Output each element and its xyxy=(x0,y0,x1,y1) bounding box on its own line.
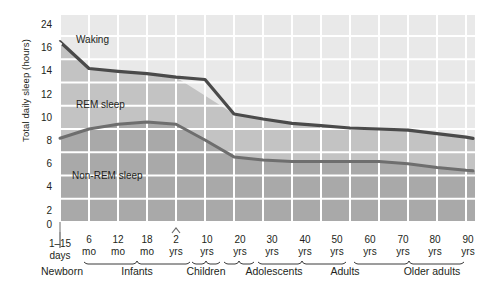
x-tick-13-top: 90 xyxy=(462,234,474,245)
y-tick-10: 10 xyxy=(41,112,53,123)
y-tick-4: 4 xyxy=(46,181,52,192)
y-tick-0: 0 xyxy=(46,219,52,230)
x-tick-10-top: 60 xyxy=(364,234,376,245)
x-tick-10-bottom: yrs xyxy=(363,246,376,257)
sleep-architecture-chart: Total daily sleep (hours) xyxy=(0,0,492,282)
group-label-older-adults: Older adults xyxy=(404,265,461,277)
x-tick-1-bottom: mo xyxy=(82,246,96,257)
x-tick-6-top: 20 xyxy=(234,234,246,245)
y-axis-title: Total daily sleep (hours) xyxy=(20,11,31,171)
y-tick-6: 6 xyxy=(46,158,52,169)
band-label-non-rem-sleep: Non-REM sleep xyxy=(72,170,143,181)
x-tick-13-bottom: yrs xyxy=(461,246,474,257)
x-tick-8-top: 40 xyxy=(299,234,311,245)
x-tick-4-bottom: yrs xyxy=(169,246,182,257)
y-tick-12: 12 xyxy=(41,89,53,100)
y-axis-ticks: 24 16 14 12 10 8 6 4 2 0 xyxy=(41,19,53,230)
x-tick-4-top: 2 xyxy=(173,234,179,245)
x-axis-ticks: 1–15 days 6 mo 12 mo 18 mo 2 yrs 10 yrs … xyxy=(49,234,475,261)
x-tick-11-bottom: yrs xyxy=(396,246,409,257)
x-tick-1-top: 6 xyxy=(86,234,92,245)
y-tick-16: 16 xyxy=(41,42,53,53)
chart-canvas: 24 16 14 12 10 8 6 4 2 0 Waking REM slee… xyxy=(0,0,492,282)
x-tick-7-bottom: yrs xyxy=(265,246,278,257)
y-tick-24: 24 xyxy=(41,19,53,30)
x-tick-8-bottom: yrs xyxy=(298,246,311,257)
group-label-adolescents: Adolescents xyxy=(245,265,302,277)
band-label-waking: Waking xyxy=(76,34,109,45)
x-tick-6-bottom: yrs xyxy=(233,246,246,257)
y-tick-14: 14 xyxy=(41,65,53,76)
x-tick-9-top: 50 xyxy=(331,234,343,245)
x-tick-12-top: 80 xyxy=(429,234,441,245)
x-tick-5-bottom: yrs xyxy=(200,246,213,257)
group-label-children: Children xyxy=(186,265,225,277)
y-tick-2: 2 xyxy=(46,205,52,216)
x-tick-5-top: 10 xyxy=(201,234,213,245)
x-tick-3-top: 18 xyxy=(141,234,153,245)
x-tick-0-bottom: days xyxy=(49,250,70,261)
band-label-rem-sleep: REM sleep xyxy=(76,99,125,110)
x-tick-3-bottom: mo xyxy=(140,246,154,257)
group-label-adults: Adults xyxy=(330,265,359,277)
group-label-newborn: Newborn xyxy=(41,265,83,277)
x-tick-12-bottom: yrs xyxy=(428,246,441,257)
x-tick-11-top: 70 xyxy=(397,234,409,245)
age-group-labels: Newborn Infants Children Adolescents Adu… xyxy=(41,265,460,277)
x-tick-2-top: 12 xyxy=(112,234,124,245)
x-tick-2-bottom: mo xyxy=(111,246,125,257)
x-tick-9-bottom: yrs xyxy=(330,246,343,257)
group-label-infants: Infants xyxy=(121,265,153,277)
x-tick-7-top: 30 xyxy=(266,234,278,245)
plot-bands xyxy=(60,14,475,222)
x-axis-break-icon xyxy=(172,228,180,233)
y-tick-8: 8 xyxy=(46,135,52,146)
